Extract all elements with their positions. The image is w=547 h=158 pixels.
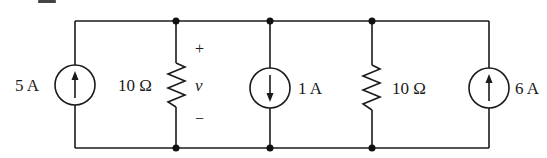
current-source-1a: 1 A	[250, 21, 323, 148]
resistor-label-r2: 10 Ω	[392, 79, 426, 98]
resistor-r1: 10 Ω + v −	[118, 21, 204, 148]
arrow-down-icon	[267, 75, 274, 102]
junction-node	[173, 18, 180, 25]
resistor-label-r1: 10 Ω	[118, 76, 152, 95]
voltage-label-v: v	[195, 76, 203, 95]
junction-node	[369, 145, 376, 152]
resistor-r2: 10 Ω	[363, 21, 426, 148]
junction-node	[267, 18, 274, 25]
voltage-minus-sign: −	[195, 110, 204, 127]
cropped-figure-label	[38, 0, 56, 3]
source-label-1a: 1 A	[298, 79, 323, 98]
source-label-6a: 6 A	[515, 79, 540, 98]
arrow-up-icon	[72, 71, 79, 98]
resistor-zigzag-icon	[363, 65, 380, 110]
resistor-zigzag-icon	[168, 63, 185, 107]
junction-node	[369, 18, 376, 25]
current-source-5a: 5 A	[15, 21, 95, 148]
junction-node	[173, 145, 180, 152]
arrow-up-icon	[486, 74, 493, 101]
source-label-5a: 5 A	[15, 76, 40, 95]
junction-node	[267, 145, 274, 152]
circuit-diagram: 5 A 10 Ω + v − 1 A 10 Ω	[0, 0, 547, 158]
voltage-plus-sign: +	[195, 40, 204, 57]
current-source-6a: 6 A	[469, 21, 540, 148]
